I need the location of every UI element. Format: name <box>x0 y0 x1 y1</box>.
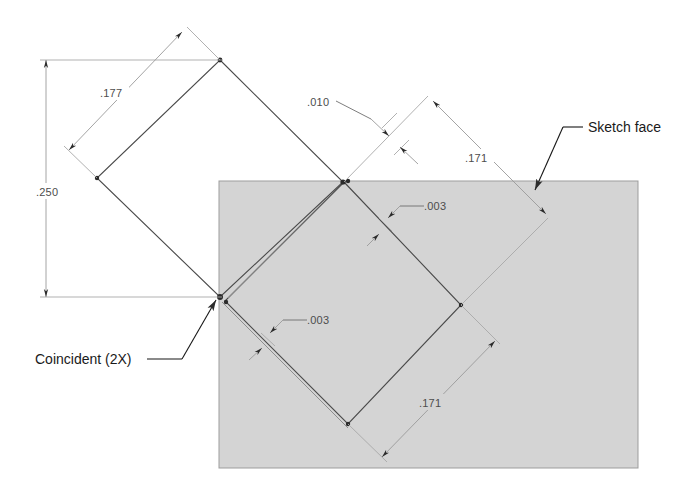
dimension-line-010-b[interactable] <box>400 147 418 164</box>
vertex-coincident-upper[interactable] <box>340 179 345 184</box>
sketch-face-group <box>219 181 638 468</box>
leader-line-010 <box>336 101 371 119</box>
extension-line-010-b <box>394 140 409 155</box>
dimension-003-lower-label[interactable]: .003 <box>307 314 329 326</box>
extension-line-171u-top <box>344 96 428 182</box>
cad-drawing-canvas: .250 .177 .010 .171 <box>0 0 697 493</box>
dimension-003-upper-label[interactable]: .003 <box>424 200 446 212</box>
dimension-250-label[interactable]: .250 <box>36 186 58 198</box>
annotation-sketch-face-group[interactable]: Sketch face <box>535 119 661 190</box>
extension-line-010-a <box>382 113 397 128</box>
technical-drawing-svg: .250 .177 .010 .171 <box>0 0 697 493</box>
dimension-010-label[interactable]: .010 <box>307 96 329 108</box>
dimension-171-upper-label[interactable]: .171 <box>465 152 487 164</box>
dimension-177-label[interactable]: .177 <box>100 87 122 99</box>
extension-line-177-upper <box>187 27 220 60</box>
annotation-coincident-group[interactable]: Coincident (2X) <box>35 300 216 367</box>
sketch-face-rectangle <box>219 181 638 468</box>
annotation-coincident-label[interactable]: Coincident (2X) <box>35 351 132 367</box>
vertex-offset-left[interactable] <box>224 300 228 304</box>
dimension-line-010-a[interactable] <box>371 119 389 136</box>
note-leader-arrow-coincident <box>182 300 216 359</box>
dimension-171-lower-label[interactable]: .171 <box>419 397 441 409</box>
extension-line-177-lower <box>64 146 97 178</box>
dimension-010-group[interactable]: .010 <box>307 96 418 164</box>
dimension-177-group[interactable]: .177 <box>64 27 220 178</box>
annotation-sketch-face-label[interactable]: Sketch face <box>588 119 661 135</box>
